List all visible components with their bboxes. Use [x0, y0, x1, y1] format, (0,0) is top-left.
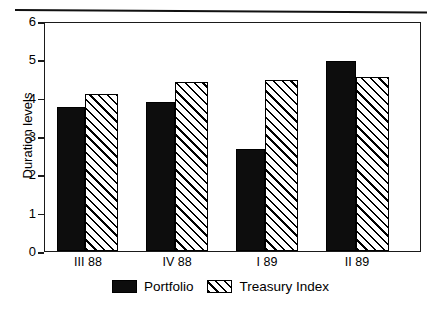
- bar-treasury-ii89: [356, 77, 389, 251]
- legend-swatch-hatch-icon: [207, 280, 232, 293]
- y-tick-label-4: 4: [14, 92, 36, 105]
- legend-entry-treasury-index: Treasury Index: [207, 279, 329, 294]
- y-tick-label-2: 2: [14, 168, 36, 181]
- bar-portfolio-ii89: [326, 61, 356, 251]
- y-tick-label-3: 3: [14, 130, 36, 143]
- bar-portfolio-iii88: [57, 107, 85, 251]
- plot-area: [44, 22, 421, 252]
- legend-swatch-solid-icon: [112, 280, 137, 293]
- legend-entry-portfolio: Portfolio: [112, 279, 194, 294]
- y-tick-label-1: 1: [14, 207, 36, 220]
- y-tick-label-5: 5: [14, 53, 36, 66]
- y-tick-label-6: 6: [14, 15, 36, 28]
- x-label-iii88: III 88: [57, 255, 119, 269]
- y-tick-0: [38, 252, 44, 254]
- bar-chart-figure: Duration levels 6 5 4 3 2 1 0 III 88 IV …: [0, 0, 441, 310]
- bar-treasury-i89: [265, 80, 298, 251]
- bar-treasury-iii88: [85, 94, 118, 251]
- chart-legend: Portfolio Treasury Index: [0, 279, 441, 294]
- legend-label-portfolio: Portfolio: [144, 279, 194, 294]
- bar-portfolio-i89: [236, 149, 265, 251]
- x-label-i89: I 89: [236, 255, 298, 269]
- y-tick-label-0: 0: [14, 245, 36, 258]
- x-label-iv88: IV 88: [146, 255, 208, 269]
- x-label-ii89: II 89: [326, 255, 388, 269]
- legend-label-treasury-index: Treasury Index: [239, 279, 329, 294]
- top-divider-rule: [15, 9, 427, 14]
- bar-treasury-iv88: [175, 82, 208, 251]
- bar-portfolio-iv88: [146, 102, 175, 251]
